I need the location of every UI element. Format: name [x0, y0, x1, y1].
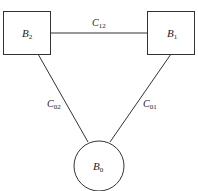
edge-c01-label: C01: [143, 98, 157, 111]
edge-b1-b0: [110, 54, 171, 142]
edge-c12-label: C12: [92, 17, 106, 30]
edge-b2-b0: [38, 54, 88, 142]
diagram-canvas: B2 B1 B0 C12 C02 C01: [0, 0, 198, 191]
edge-c02-label: C02: [47, 98, 61, 111]
